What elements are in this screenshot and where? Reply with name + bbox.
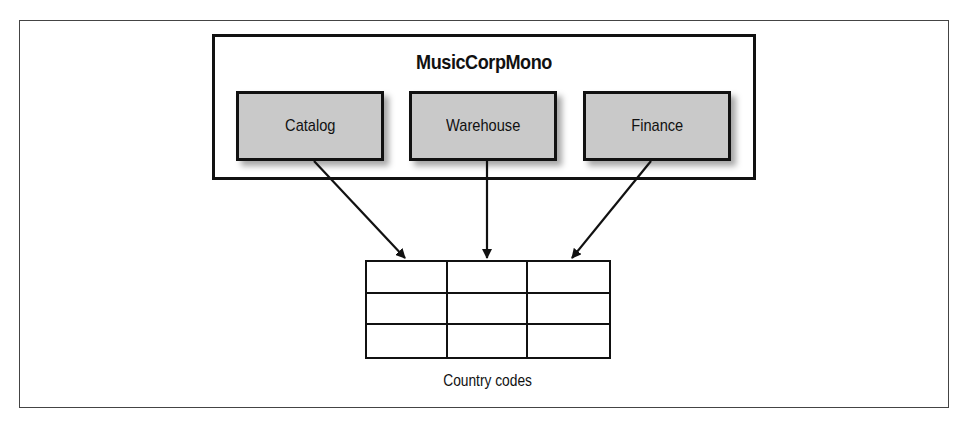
module-catalog-label: Catalog [285, 116, 335, 136]
module-finance-label: Finance [631, 116, 683, 136]
table-cell [448, 262, 529, 294]
module-warehouse-label: Warehouse [446, 116, 520, 136]
table-cell [367, 294, 448, 326]
table-label: Country codes [365, 372, 611, 390]
module-catalog: Catalog [236, 91, 384, 161]
table-cell [367, 325, 448, 357]
table-cell [367, 262, 448, 294]
table-cell [528, 294, 609, 326]
table-label-text: Country codes [444, 372, 533, 390]
table-cell [448, 294, 529, 326]
module-warehouse: Warehouse [409, 91, 557, 161]
module-finance: Finance [583, 91, 731, 161]
table-cell [528, 262, 609, 294]
monolith-title: MusicCorpMono [253, 50, 716, 74]
table-cell [448, 325, 529, 357]
table-cell [528, 325, 609, 357]
country-codes-table [365, 260, 611, 359]
